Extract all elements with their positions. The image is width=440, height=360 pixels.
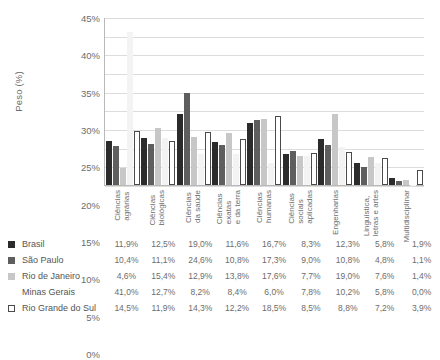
bar[interactable] <box>275 116 281 185</box>
x-axis-tick-label: Engenharias <box>331 190 340 235</box>
table-cell: 4,6% <box>108 271 145 281</box>
bar[interactable] <box>127 32 133 185</box>
x-axis-tick-label: Ciências biológicas <box>148 190 166 226</box>
legend-entry[interactable]: Rio de Janeiro <box>0 271 108 281</box>
bar[interactable] <box>389 178 395 185</box>
bar[interactable] <box>290 151 296 185</box>
bar[interactable] <box>318 139 324 185</box>
bar[interactable] <box>155 128 161 185</box>
bar[interactable] <box>304 156 310 185</box>
legend-entry[interactable]: São Paulo <box>0 255 108 265</box>
table-row: Rio Grande do Sul14,5%11,9%14,3%12,2%18,… <box>0 300 440 316</box>
table-cell: 3,9% <box>403 303 440 313</box>
bar-group <box>353 18 388 185</box>
table-cell: 8,8% <box>329 303 366 313</box>
bar[interactable] <box>339 147 345 185</box>
legend-label: Rio Grande do Sul <box>22 303 96 313</box>
bar[interactable] <box>141 138 147 185</box>
legend-label: São Paulo <box>22 255 64 265</box>
table-cell: 7,8% <box>292 287 329 297</box>
bar[interactable] <box>361 167 367 185</box>
bar[interactable] <box>198 154 204 185</box>
gridline: 0% <box>105 186 424 187</box>
bar-group <box>211 18 246 185</box>
bar[interactable] <box>169 141 175 185</box>
bar[interactable] <box>233 154 239 185</box>
table-cell: 10,2% <box>329 287 366 297</box>
bar[interactable] <box>368 157 374 185</box>
table-cell: 13,8% <box>219 271 256 281</box>
bar[interactable] <box>247 123 253 185</box>
table-cell: 8,5% <box>292 303 329 313</box>
x-axis-label-cell: Ciências biológicas <box>140 188 176 240</box>
table-cell: 14,5% <box>108 303 145 313</box>
bar[interactable] <box>184 93 190 185</box>
legend-swatch-icon <box>8 257 15 264</box>
bar[interactable] <box>148 144 154 185</box>
bar[interactable] <box>375 163 381 185</box>
y-axis-tick: 25% <box>81 162 100 173</box>
table-cell: 10,4% <box>108 255 145 265</box>
bar[interactable] <box>332 114 338 185</box>
table-cell: 12,9% <box>182 271 219 281</box>
bar[interactable] <box>219 145 225 185</box>
x-axis-tick-label: Ciências exatas e da terra <box>215 190 242 224</box>
bar[interactable] <box>354 163 360 185</box>
table-cell: 12,2% <box>219 303 256 313</box>
x-axis-tick-label: Ciências da saúde <box>184 190 202 223</box>
legend-entry[interactable]: Rio Grande do Sul <box>0 303 108 313</box>
bar[interactable] <box>212 142 218 185</box>
legend-label: Rio de Janeiro <box>22 271 80 281</box>
bar[interactable] <box>417 170 423 185</box>
legend-label: Minas Gerais <box>22 287 75 297</box>
table-cell: 15,4% <box>145 271 182 281</box>
table-row: Brasil11,9%12,5%19,0%11,6%16,7%8,3%12,3%… <box>0 236 440 252</box>
bar[interactable] <box>297 156 303 185</box>
table-cell: 12,5% <box>145 239 182 249</box>
y-axis-tick: 20% <box>81 199 100 210</box>
bar[interactable] <box>120 168 126 185</box>
bar[interactable] <box>205 132 211 185</box>
table-cell: 19,0% <box>182 239 219 249</box>
bar[interactable] <box>396 181 402 185</box>
x-axis-tick-label: Multidisciplinar <box>402 190 411 242</box>
table-cell: 19,0% <box>329 271 366 281</box>
bar[interactable] <box>311 153 317 185</box>
bar-group <box>140 18 175 185</box>
table-cell: 17,6% <box>256 271 293 281</box>
bar[interactable] <box>346 152 352 185</box>
legend-entry[interactable]: Brasil <box>0 239 108 249</box>
table-cell: 8,3% <box>292 239 329 249</box>
bar[interactable] <box>134 131 140 185</box>
x-axis-label-cell: Multidisciplinar <box>389 188 425 240</box>
bar[interactable] <box>113 146 119 185</box>
y-axis-tick: 35% <box>81 87 100 98</box>
table-cell: 11,1% <box>145 255 182 265</box>
bar[interactable] <box>162 138 168 185</box>
bar[interactable] <box>254 120 260 185</box>
bar[interactable] <box>283 154 289 185</box>
bar[interactable] <box>410 185 416 186</box>
table-cell: 9,0% <box>292 255 329 265</box>
bar[interactable] <box>325 145 331 185</box>
bar[interactable] <box>261 119 267 185</box>
table-cell: 8,2% <box>182 287 219 297</box>
bar[interactable] <box>106 141 112 185</box>
x-axis-label-cell: Ciências sociais aplicadas <box>282 188 318 240</box>
table-cell: 12,3% <box>329 239 366 249</box>
bar[interactable] <box>268 163 274 185</box>
bar[interactable] <box>226 133 232 185</box>
bar-group <box>282 18 317 185</box>
bar[interactable] <box>403 180 409 185</box>
bar[interactable] <box>240 139 246 185</box>
bar-group <box>176 18 211 185</box>
legend-entry[interactable]: Minas Gerais <box>0 287 108 297</box>
bar[interactable] <box>191 137 197 185</box>
table-cell: 4,8% <box>366 255 403 265</box>
x-axis-label-cell: Ciências humanas <box>246 188 282 240</box>
x-axis-tick-label: Ciências humanas <box>255 190 273 223</box>
table-row: São Paulo10,4%11,1%24,6%10,8%17,3%9,0%10… <box>0 252 440 268</box>
bar[interactable] <box>382 158 388 185</box>
bar[interactable] <box>177 114 183 185</box>
